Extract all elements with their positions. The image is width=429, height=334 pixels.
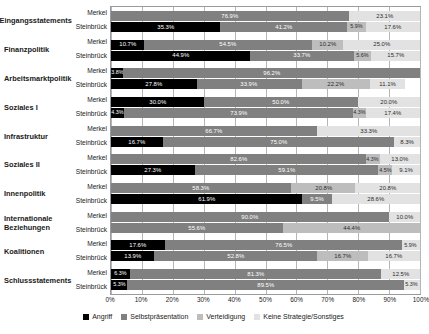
bar-segment-label: 44.9%: [172, 53, 189, 59]
bar-segment: 8.3%: [394, 137, 420, 147]
x-tick-label: 10%: [135, 296, 148, 303]
bar-row: 55.6%44.4%: [111, 223, 420, 233]
speaker-labels: MerkelSteinbrück: [76, 211, 107, 235]
bar-row: 66.7%33.3%: [111, 126, 420, 136]
plot-area: 76.9%23.1%35.3%41.2%5.9%17.6%10.7%54.5%1…: [110, 6, 421, 295]
speaker-labels: MerkelSteinbrück: [76, 182, 107, 206]
x-tick-label: 30%: [197, 296, 210, 303]
category-axis: EingangsstatementsMerkelSteinbrückFinanz…: [0, 6, 110, 295]
bar-segment-label: 27.3%: [145, 167, 162, 173]
bar-segment: 52.8%: [154, 251, 317, 261]
bar-segment-label: 61.9%: [198, 196, 215, 202]
bar-row: 16.7%75.0%8.3%: [111, 137, 420, 147]
legend-swatch-icon: [83, 314, 89, 320]
bar-segment: 73.9%: [124, 108, 352, 118]
legend-item[interactable]: Angriff: [83, 313, 112, 320]
speaker-label: Merkel: [76, 240, 107, 250]
legend-label: Keine Strategie/Sonstiges: [263, 313, 344, 320]
bar-segment: 81.3%: [130, 269, 381, 279]
bar-segment: 3.8%: [111, 68, 123, 78]
bar-row: 58.3%20.8%20.8%: [111, 183, 420, 193]
x-tick-label: 100%: [413, 296, 429, 303]
bar-row: 82.6%4.3%13.0%: [111, 154, 420, 164]
speaker-label: Steinbrück: [76, 22, 107, 32]
bar-segment: 16.7%: [317, 251, 369, 261]
legend-item[interactable]: Keine Strategie/Sonstiges: [254, 313, 344, 320]
category-label-group: InnenpolitikMerkelSteinbrück: [0, 179, 110, 208]
bar-segment: 5.9%: [347, 22, 365, 32]
category-label-group: Soziales IMerkelSteinbrück: [0, 93, 110, 122]
bar-segment-label: 20.8%: [315, 185, 332, 191]
speaker-labels: MerkelSteinbrück: [76, 269, 107, 293]
x-tick-label: 20%: [166, 296, 179, 303]
bar-segment-label: 17.6%: [384, 24, 401, 30]
bar-segment: 5.3%: [111, 280, 127, 290]
bar-segment: 17.4%: [366, 108, 420, 118]
bar-segment-label: 66.7%: [206, 128, 223, 134]
bar-segment: 10.7%: [111, 40, 144, 50]
category-group: 90.0%10.0%55.6%44.4%: [111, 208, 420, 237]
speaker-labels: MerkelSteinbrück: [76, 124, 107, 148]
speaker-label: Steinbrück: [76, 283, 107, 293]
category-label-group: EingangsstatementsMerkelSteinbrück: [0, 6, 110, 35]
bar-segment: 13.0%: [380, 154, 420, 164]
x-tick-label: 60%: [290, 296, 303, 303]
bar-segment-label: 23.1%: [376, 13, 393, 19]
speaker-labels: MerkelSteinbrück: [76, 37, 107, 61]
gridline: [420, 7, 421, 294]
category-group: 17.6%76.5%5.9%13.9%52.8%16.7%16.7%: [111, 237, 420, 266]
bar-segment-label: 33.3%: [360, 128, 377, 134]
speaker-label: Merkel: [76, 8, 107, 18]
category-label-group: ArbeitsmarktpolitikMerkelSteinbrück: [0, 64, 110, 93]
legend-item[interactable]: Selbstpräsentation: [121, 313, 188, 320]
bar-segment: 10.0%: [389, 212, 420, 222]
speaker-labels: MerkelSteinbrück: [76, 8, 107, 32]
category-label-group: Soziales IIMerkelSteinbrück: [0, 151, 110, 180]
x-tick-label: 50%: [259, 296, 272, 303]
legend-swatch-icon: [197, 314, 203, 320]
category-group: 3.8%96.2%27.8%33.9%22.2%11.1%: [111, 64, 420, 93]
bar-segment: 27.3%: [111, 165, 195, 175]
bar-segment-label: 28.6%: [367, 196, 384, 202]
speaker-label: Steinbrück: [76, 109, 107, 119]
bar-segment-label: 5.9%: [405, 243, 417, 248]
speaker-labels: MerkelSteinbrück: [76, 153, 107, 177]
bar-segment: 50.0%: [204, 97, 359, 107]
bar-segment-label: 10.0%: [396, 214, 413, 220]
speaker-label: Merkel: [76, 124, 107, 134]
bar-row: 76.9%23.1%: [111, 11, 420, 21]
bar-segment: 33.3%: [317, 126, 420, 136]
bar-segment-label: 50.0%: [273, 99, 290, 105]
bar-segment-label: 75.0%: [270, 139, 287, 145]
bar-row: 4.3%73.9%4.3%17.4%: [111, 108, 420, 118]
bar-segment-label: 22.2%: [328, 81, 345, 87]
category-group: 10.7%54.5%10.2%25.0%44.9%33.7%5.6%15.7%: [111, 36, 420, 65]
bar-segment-label: 13.9%: [124, 253, 141, 259]
bar-segment-label: 82.6%: [230, 156, 247, 162]
speaker-label: Merkel: [76, 66, 107, 76]
bar-segment: 20.8%: [355, 183, 419, 193]
bar-row: 61.9%9.5%28.6%: [111, 194, 420, 204]
bar-segment-label: 81.3%: [247, 271, 264, 277]
bar-segment: 66.7%: [111, 126, 317, 136]
bar-segment: 10.2%: [312, 40, 343, 50]
speaker-labels: MerkelSteinbrück: [76, 95, 107, 119]
bar-segment: 76.9%: [111, 11, 349, 21]
bar-segment: 59.1%: [195, 165, 378, 175]
bar-segment-label: 16.7%: [334, 253, 351, 259]
bar-segment: 55.6%: [111, 223, 283, 233]
bar-segment: 54.5%: [144, 40, 312, 50]
bar-segment-label: 5.6%: [356, 53, 368, 58]
bar-segment-label: 76.5%: [275, 242, 292, 248]
bar-segment: 58.3%: [111, 183, 291, 193]
bar-row: 90.0%10.0%: [111, 212, 420, 222]
speaker-label: Merkel: [76, 37, 107, 47]
legend-item[interactable]: Verteidigung: [197, 313, 245, 320]
bar-segment-label: 16.7%: [128, 139, 145, 145]
bar-row: 3.8%96.2%: [111, 68, 420, 78]
category-label-group: Internationale BeziehungenMerkelSteinbrü…: [0, 208, 110, 237]
x-tick-label: 0%: [105, 296, 114, 303]
bar-segment: 76.5%: [165, 240, 401, 250]
legend-label: Verteidigung: [206, 313, 245, 320]
bar-segment: 30.0%: [111, 97, 204, 107]
